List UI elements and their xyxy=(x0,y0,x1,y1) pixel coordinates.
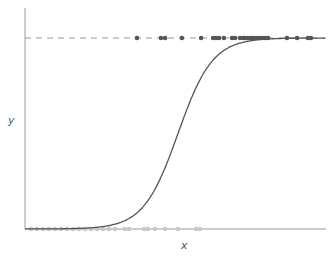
data-point xyxy=(153,227,158,232)
data-point xyxy=(295,36,300,41)
x-axis-label: x xyxy=(180,239,188,252)
data-point xyxy=(217,36,222,41)
data-point xyxy=(198,227,203,232)
data-point xyxy=(285,36,290,41)
data-point xyxy=(127,227,132,232)
data-point xyxy=(163,36,168,41)
data-point xyxy=(123,227,128,232)
data-point xyxy=(83,227,88,232)
data-point xyxy=(199,36,204,41)
data-point xyxy=(163,227,168,232)
data-point xyxy=(180,36,185,41)
data-point xyxy=(146,227,151,232)
data-point xyxy=(159,36,164,41)
sigmoid-curve xyxy=(25,38,325,229)
data-point xyxy=(107,227,112,232)
data-point xyxy=(176,227,181,232)
data-point xyxy=(309,36,314,41)
data-point xyxy=(266,36,271,41)
data-point xyxy=(222,36,227,41)
data-point xyxy=(113,227,118,232)
logistic-chart: y x xyxy=(0,0,333,260)
data-point xyxy=(233,36,238,41)
y-axis-label: y xyxy=(7,114,15,127)
points-y1 xyxy=(135,36,314,41)
data-point xyxy=(135,36,140,41)
